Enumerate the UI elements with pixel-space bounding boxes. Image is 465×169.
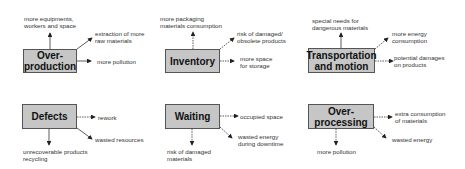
effect-label: more equipments,workers and space [24,15,76,30]
waste-box-waiting: Waiting [165,104,220,129]
waste-box-transportation: Transportationand motion [308,48,375,73]
effect-label: wasted energy [392,136,432,143]
box-title-line: Transportation [307,50,377,61]
effect-label: occupied space [240,113,283,120]
waste-box-overproduction: Over-production [23,49,77,73]
effect-label: more pollution [317,148,356,155]
effect-label: wasted energyduring downtime [238,133,283,148]
box-title-line: and motion [307,61,377,72]
box-title: Inventory [170,56,215,67]
effect-label: extra consumptionof materials [395,110,446,125]
effect-label: wasted resources [95,136,144,143]
effect-label: more energyconsumption [392,30,427,45]
box-title-line: Over- [24,50,76,61]
effect-label: risk of damagedmaterials [167,148,211,163]
box-title: Defects [31,111,67,122]
waste-box-defects: Defects [22,104,77,129]
box-title: Waiting [175,111,211,122]
waste-box-overprocessing: Over-processing [308,104,374,129]
effect-label: unrecoverable productsrecycling [23,148,88,163]
effect-label: more spacefor storage [240,55,272,70]
waste-box-inventory: Inventory [165,49,220,73]
effect-label: potential damageson products [394,54,445,69]
effect-label: rework [98,114,117,121]
box-title-line: processing [314,117,367,128]
box-title-line: production [24,61,76,72]
effect-label: more pollution [97,58,136,65]
effect-label: extraction of moreraw materials [95,30,145,45]
effect-label: special needs fordangerous materials [312,17,368,32]
effect-label: risk of damaged/obsolete products [237,30,286,45]
effect-label: more packagingmaterials consumption [160,15,222,30]
box-title-line: Over- [314,106,367,117]
